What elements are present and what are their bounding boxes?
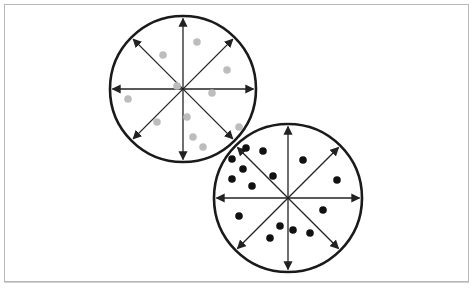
particle-dot <box>269 172 277 180</box>
particle-dot <box>228 155 236 163</box>
particle-dot <box>235 123 243 131</box>
particle-dot <box>199 143 207 151</box>
particle-dot <box>183 113 191 121</box>
lower-right-circle <box>214 124 362 272</box>
particle-dot <box>189 133 197 141</box>
particle-dot <box>153 118 161 126</box>
diagram-canvas <box>0 0 475 290</box>
particle-dot <box>228 175 236 183</box>
particle-dot <box>266 234 274 242</box>
particle-dot <box>248 182 256 190</box>
particle-dot <box>208 89 216 97</box>
particle-dot <box>242 144 250 152</box>
particle-dot <box>259 147 267 155</box>
particle-dot <box>299 156 307 164</box>
particle-dot <box>333 176 341 184</box>
particle-dot <box>289 226 297 234</box>
particle-dot <box>276 222 284 230</box>
particle-dot <box>306 229 314 237</box>
particle-dot <box>239 165 247 173</box>
particle-dot <box>159 51 167 59</box>
upper-left-circle <box>110 16 256 162</box>
particle-dot <box>235 212 243 220</box>
particle-dot <box>319 206 327 214</box>
circles-layer <box>110 16 362 272</box>
particle-dot <box>173 82 181 90</box>
particle-dot <box>124 95 132 103</box>
particle-dot <box>223 66 231 74</box>
particle-dot <box>193 38 201 46</box>
